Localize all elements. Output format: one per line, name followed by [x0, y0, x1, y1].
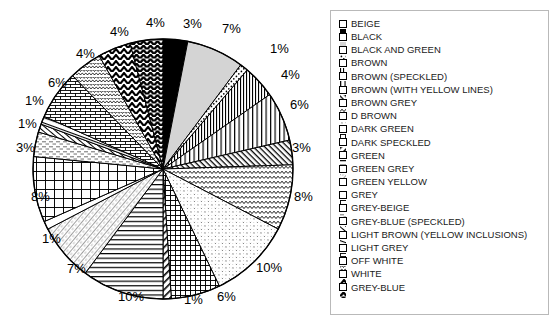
legend-swatch-icon — [339, 165, 347, 173]
legend-item-label: GREEN GREY — [351, 164, 414, 174]
pie-percent-label: 7% — [222, 22, 241, 35]
pie-percent-label: 1% — [42, 232, 61, 245]
legend-item-label: GREY-BLUE — [351, 283, 405, 293]
legend-swatch-icon — [339, 204, 347, 212]
legend-item[interactable]: BLACK — [339, 30, 548, 43]
pie-percent-label: 6% — [290, 98, 309, 111]
pie-percent-label: 1% — [25, 94, 44, 107]
legend-item[interactable]: GREEN GREY — [339, 162, 548, 175]
legend-item[interactable]: LIGHT GREY — [339, 241, 548, 254]
legend-item[interactable]: GREY-BLUE (SPECKLED) — [339, 215, 548, 228]
legend-swatch-icon — [339, 283, 347, 291]
legend-item-label: GREY — [351, 190, 378, 200]
legend-swatch-icon — [339, 86, 347, 94]
legend-item[interactable]: GREY — [339, 188, 548, 201]
pie-chart-figure: 3%7%1%4%6%3%8%10%6%1%10%7%1%8%3%1%1%6%4%… — [0, 0, 556, 327]
pie-percent-label: 6% — [217, 290, 236, 303]
legend-item[interactable]: BROWN — [339, 57, 548, 70]
legend-item-label: GREEN YELLOW — [351, 177, 427, 187]
legend-swatch-icon — [339, 33, 347, 41]
legend-item-label: D BROWN — [351, 111, 397, 121]
legend-item[interactable]: GREEN — [339, 149, 548, 162]
legend-swatch-icon — [339, 72, 347, 80]
legend-item[interactable]: BROWN (SPECKLED) — [339, 70, 548, 83]
legend-swatch-icon — [339, 257, 347, 265]
legend-item-label: BROWN (WITH YELLOW LINES) — [351, 85, 493, 95]
pie-percent-label: 3% — [183, 17, 202, 30]
legend-item[interactable]: BROWN GREY — [339, 96, 548, 109]
pie-percent-label: 1% — [270, 42, 289, 55]
pie-percent-label: 3% — [292, 141, 311, 154]
legend-item-label: BROWN GREY — [351, 98, 417, 108]
legend-swatch-icon — [339, 231, 347, 239]
pie-percent-label: 4% — [110, 25, 129, 38]
legend-item-label: BLACK — [351, 32, 382, 42]
pie-percent-label: 6% — [48, 76, 67, 89]
legend-item-label: LIGHT BROWN (YELLOW INCLUSIONS) — [351, 230, 527, 240]
legend-item-label: BEIGE — [351, 19, 380, 29]
pie-percent-label: 1% — [18, 117, 37, 130]
pie-percent-label: 4% — [76, 47, 95, 60]
legend-item-label: BLACK AND GREEN — [351, 45, 441, 55]
legend-item[interactable]: LIGHT BROWN (YELLOW INCLUSIONS) — [339, 228, 548, 241]
pie-percent-label: 4% — [146, 16, 165, 29]
legend-item-label: OFF WHITE — [351, 256, 403, 266]
pie-percent-label: 7% — [67, 262, 86, 275]
pie-percent-label: 8% — [294, 190, 313, 203]
legend-swatch-icon — [339, 138, 347, 146]
legend-swatch-icon — [339, 20, 347, 28]
legend-item-label: DARK SPECKLED — [351, 138, 431, 148]
legend-swatch-icon — [339, 59, 347, 67]
legend-item-label: GREY-BEIGE — [351, 203, 409, 213]
legend-item-label: GREEN — [351, 151, 385, 161]
pie-percent-label: 3% — [16, 141, 35, 154]
legend-swatch-icon — [339, 178, 347, 186]
legend-item[interactable]: GREEN YELLOW — [339, 175, 548, 188]
legend-swatch-icon — [339, 151, 347, 159]
legend-swatch-icon — [339, 270, 347, 278]
pie-percent-label: 10% — [118, 290, 144, 303]
legend-item[interactable]: DARK SPECKLED — [339, 136, 548, 149]
legend-swatch-icon — [339, 191, 347, 199]
legend-item[interactable]: DARK GREEN — [339, 123, 548, 136]
legend-swatch-icon — [339, 244, 347, 252]
legend-item-label: LIGHT GREY — [351, 243, 408, 253]
chart-legend: BEIGEBLACKBLACK AND GREENBROWNBROWN (SPE… — [330, 10, 549, 315]
pie-chart-plot-area: 3%7%1%4%6%3%8%10%6%1%10%7%1%8%3%1%1%6%4%… — [0, 0, 326, 327]
pie-percent-label: 10% — [256, 261, 282, 274]
legend-item-label: BROWN (SPECKLED) — [351, 72, 447, 82]
pie-percent-label: 4% — [281, 68, 300, 81]
legend-swatch-icon — [339, 46, 347, 54]
legend-swatch-icon — [339, 99, 347, 107]
legend-item[interactable]: BROWN (WITH YELLOW LINES) — [339, 83, 548, 96]
legend-swatch-icon — [339, 125, 347, 133]
legend-item[interactable]: BLACK AND GREEN — [339, 43, 548, 56]
legend-item-label: DARK GREEN — [351, 124, 414, 134]
legend-item-label: GREY-BLUE (SPECKLED) — [351, 217, 465, 227]
legend-item-label: BROWN — [351, 58, 387, 68]
pie-percent-label: 1% — [184, 293, 203, 306]
legend-item[interactable]: D BROWN — [339, 109, 548, 122]
legend-item[interactable]: GREY-BEIGE — [339, 202, 548, 215]
legend-item[interactable]: GREY-BLUE — [339, 281, 548, 294]
legend-item-label: WHITE — [351, 269, 382, 279]
pie-percent-label: 8% — [31, 190, 50, 203]
legend-item[interactable]: OFF WHITE — [339, 254, 548, 267]
legend-swatch-icon — [339, 112, 347, 120]
legend-item[interactable]: BEIGE — [339, 17, 548, 30]
legend-swatch-icon — [339, 217, 347, 225]
legend-item[interactable]: WHITE — [339, 268, 548, 281]
